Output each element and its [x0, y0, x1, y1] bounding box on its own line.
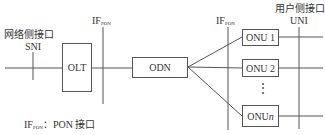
olt-node: OLT — [62, 43, 92, 92]
onu-1-node: ONU 1 — [242, 29, 279, 46]
onu-n-node: ONU n — [242, 105, 279, 127]
ifpon-label-right: IFPON — [216, 15, 235, 29]
sni-label: SNI — [25, 41, 41, 52]
ifpon-label-left: IFPON — [92, 15, 111, 29]
uni-label: UNI — [290, 15, 308, 26]
onu-2-node: ONU 2 — [242, 59, 279, 77]
pon-architecture-diagram: 网络侧接口 SNI IFPON IFPON 用户侧接口 UNI OLT ODN … — [0, 0, 325, 135]
legend: IFPON：PON 接口 — [24, 119, 95, 133]
ellipsis-dots: ⋮ — [257, 83, 269, 94]
odn-node: ODN — [132, 57, 188, 78]
uni-chinese-label: 用户侧接口 — [275, 3, 325, 14]
sni-chinese-label: 网络侧接口 — [4, 29, 54, 40]
